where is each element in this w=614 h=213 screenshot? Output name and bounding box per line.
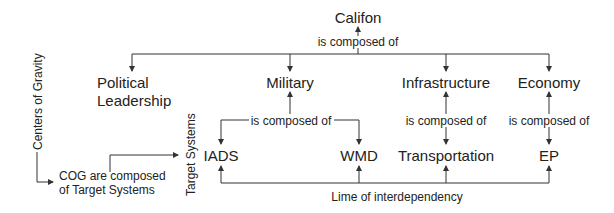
infrastructure-relation-label: is composed of	[405, 115, 488, 127]
cog-note-line1: COG are composed	[59, 170, 166, 182]
target-systems-axis-label: Target Systems	[185, 113, 197, 196]
cog-note-line2: of Target Systems	[59, 184, 155, 196]
cog-political-line1: Political	[97, 75, 149, 90]
centers-of-gravity-axis-label: Centers of Gravity	[32, 53, 44, 150]
root-node-califon: Califon	[335, 10, 382, 25]
interdependency-label: Lime of interdependency	[331, 191, 462, 203]
target-wmd: WMD	[340, 148, 378, 163]
cog-infrastructure: Infrastructure	[402, 75, 490, 90]
cog-economy: Economy	[518, 75, 581, 90]
target-iads: IADS	[203, 148, 238, 163]
cog-political-line2: Leadership	[97, 93, 171, 108]
root-relation-label: is composed of	[316, 36, 401, 48]
target-ep: EP	[539, 148, 559, 163]
military-relation-label: is composed of	[251, 115, 332, 127]
target-transportation: Transportation	[398, 148, 494, 163]
economy-relation-label: is composed of	[508, 115, 591, 127]
cog-military: Military	[266, 75, 314, 90]
